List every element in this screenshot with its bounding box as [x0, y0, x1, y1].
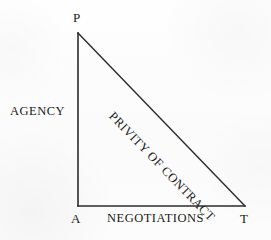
vertex-label-t: T — [240, 212, 248, 225]
triangle-side-hypotenuse-privity — [78, 33, 245, 206]
triangle-shape — [0, 0, 271, 240]
vertex-label-a: A — [71, 212, 81, 225]
side-label-agency: AGENCY — [10, 105, 65, 118]
diagram-canvas: P A T AGENCY NEGOTIATIONS PRIVITY OF CON… — [0, 0, 271, 240]
vertex-label-p: P — [73, 11, 80, 24]
side-label-negotiations: NEGOTIATIONS — [107, 212, 204, 225]
